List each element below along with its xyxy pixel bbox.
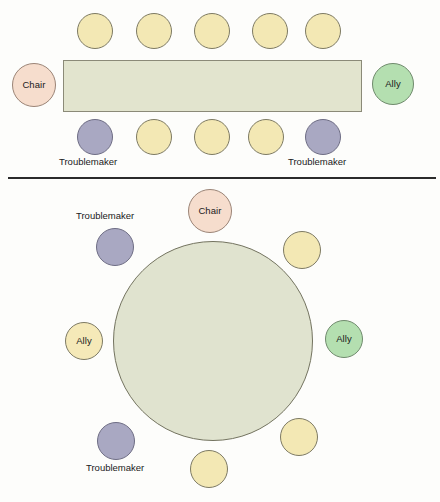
seat-round-upper-left[interactable] (96, 228, 134, 266)
seat-rect-bot-5[interactable] (305, 119, 341, 155)
seat-rect-top-5[interactable] (305, 13, 341, 49)
seat-round-right-ally[interactable]: Ally (325, 320, 363, 358)
seat-rect-top-3[interactable] (194, 13, 230, 49)
seat-round-left-ally[interactable]: Ally (65, 322, 103, 360)
seat-round-lower-left[interactable] (97, 422, 135, 460)
seat-round-lower-right[interactable] (280, 418, 318, 456)
seat-rect-top-1[interactable] (77, 13, 113, 49)
round-table (113, 241, 313, 441)
seat-label: Chair (22, 80, 45, 90)
seat-label: Ally (336, 334, 352, 344)
seat-rect-bot-2[interactable] (136, 119, 172, 155)
seat-rect-bot-3[interactable] (194, 119, 230, 155)
seat-label: Ally (76, 336, 92, 346)
seat-rect-left-chair[interactable]: Chair (12, 63, 56, 107)
seat-round-chair[interactable]: Chair (188, 189, 232, 233)
seat-rect-bot-1[interactable] (77, 119, 113, 155)
seat-rect-top-2[interactable] (136, 13, 172, 49)
section-divider (8, 177, 436, 179)
diagram-canvas: ChairAlly TroublemakerTroublemaker Chair… (0, 0, 440, 502)
label-rect-label-trouble-left: Troublemaker (59, 157, 117, 167)
seat-rect-right-ally[interactable]: Ally (372, 63, 414, 105)
label-round-label-trouble-top: Troublemaker (76, 211, 134, 221)
seat-rect-top-4[interactable] (252, 13, 288, 49)
seat-round-upper-right[interactable] (283, 231, 321, 269)
label-rect-label-trouble-right: Troublemaker (288, 157, 346, 167)
seat-label: Ally (385, 79, 401, 89)
label-round-label-trouble-bottom: Troublemaker (86, 463, 144, 473)
seat-rect-bot-4[interactable] (248, 119, 284, 155)
rectangular-table (63, 60, 362, 112)
seat-round-bottom[interactable] (190, 450, 228, 488)
seat-label: Chair (198, 206, 221, 216)
